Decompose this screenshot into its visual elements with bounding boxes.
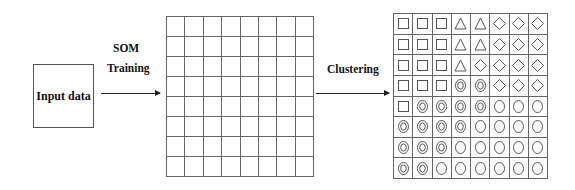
som-node [296, 57, 314, 77]
cluster-node [471, 76, 490, 97]
cluster-node [394, 138, 413, 159]
cluster-node [452, 76, 471, 97]
cluster-node [490, 14, 509, 35]
diamond-icon [511, 58, 526, 73]
diamond-icon [530, 78, 545, 93]
circle-icon [453, 140, 468, 155]
circle-icon [530, 161, 545, 176]
cluster-node [394, 35, 413, 56]
training-arrow [101, 93, 160, 94]
circle-icon [434, 161, 449, 176]
som-node [241, 37, 259, 57]
cluster-node [452, 97, 471, 118]
diamond-icon [511, 16, 526, 31]
square-icon [434, 78, 449, 93]
triangle-icon [473, 16, 488, 31]
som-node [222, 17, 240, 37]
cluster-node [413, 138, 432, 159]
square-icon [415, 16, 430, 31]
som-node [241, 97, 259, 117]
double-circle-icon [453, 119, 468, 134]
circle-icon [492, 119, 507, 134]
som-node [185, 137, 203, 157]
cluster-node [529, 158, 548, 179]
cluster-node [490, 97, 509, 118]
circle-icon [473, 140, 488, 155]
circle-icon [511, 140, 526, 155]
cluster-node [471, 117, 490, 138]
cluster-node [490, 35, 509, 56]
som-node [167, 97, 185, 117]
som-node [204, 117, 222, 137]
square-icon [396, 37, 411, 52]
som-node [204, 37, 222, 57]
clustering-label: Clustering [327, 63, 379, 75]
som-node [204, 137, 222, 157]
som-node [296, 37, 314, 57]
double-circle-icon [396, 161, 411, 176]
cluster-node [452, 55, 471, 76]
square-icon [415, 37, 430, 52]
som-node [259, 157, 277, 177]
cluster-node [413, 55, 432, 76]
cluster-node [433, 55, 452, 76]
cluster-node [413, 97, 432, 118]
cluster-node [510, 14, 529, 35]
som-node [277, 157, 295, 177]
cluster-node [471, 138, 490, 159]
cluster-node [394, 97, 413, 118]
som-node [222, 37, 240, 57]
cluster-node [394, 14, 413, 35]
diamond-icon [473, 58, 488, 73]
som-node [296, 137, 314, 157]
som-node [167, 37, 185, 57]
circle-icon [492, 161, 507, 176]
som-node [185, 157, 203, 177]
som-node [296, 117, 314, 137]
circle-icon [530, 99, 545, 114]
cluster-node [433, 117, 452, 138]
cluster-node [510, 55, 529, 76]
double-circle-icon [396, 140, 411, 155]
diamond-icon [530, 58, 545, 73]
som-node [241, 117, 259, 137]
cluster-node [529, 14, 548, 35]
circle-icon [453, 161, 468, 176]
cluster-node [413, 158, 432, 179]
cluster-node [529, 35, 548, 56]
som-node [185, 77, 203, 97]
cluster-node [490, 55, 509, 76]
cluster-node [471, 35, 490, 56]
circle-icon [492, 140, 507, 155]
cluster-node [433, 76, 452, 97]
som-node [167, 77, 185, 97]
som-node [185, 37, 203, 57]
cluster-node [471, 55, 490, 76]
double-circle-icon [396, 119, 411, 134]
triangle-icon [453, 37, 468, 52]
som-node [277, 17, 295, 37]
som-node [222, 97, 240, 117]
cluster-node [510, 97, 529, 118]
som-node [204, 17, 222, 37]
diamond-icon [492, 58, 507, 73]
som-node [185, 97, 203, 117]
som-node [277, 57, 295, 77]
cluster-node [510, 158, 529, 179]
cluster-node [433, 138, 452, 159]
square-icon [434, 37, 449, 52]
square-icon [396, 58, 411, 73]
som-node [241, 17, 259, 37]
som-node [222, 77, 240, 97]
double-circle-icon [473, 99, 488, 114]
diamond-icon [492, 16, 507, 31]
som-node [185, 57, 203, 77]
som-node [296, 77, 314, 97]
square-icon [396, 78, 411, 93]
som-node [185, 117, 203, 137]
cluster-node [394, 117, 413, 138]
cluster-node [471, 97, 490, 118]
square-icon [415, 78, 430, 93]
circle-icon [511, 161, 526, 176]
cluster-node [433, 158, 452, 179]
